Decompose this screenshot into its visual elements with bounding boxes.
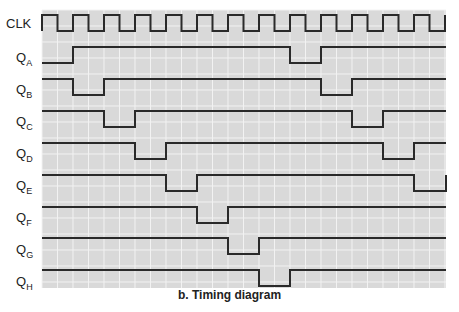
grid-background — [42, 10, 446, 288]
qb-label: QB — [16, 82, 32, 100]
qc-label: QC — [16, 114, 33, 132]
signal-labels: CLKQAQBQCQDQEQFQGQH — [6, 16, 33, 292]
qe-label: QE — [16, 178, 32, 196]
timing-diagram: CLKQAQBQCQDQEQFQGQH — [0, 0, 459, 312]
qa-label: QA — [16, 50, 32, 68]
qd-label: QD — [16, 146, 33, 164]
figure-caption: b. Timing diagram — [0, 288, 459, 302]
qg-label: QG — [16, 242, 33, 260]
qf-label: QF — [16, 210, 32, 228]
clk-label: CLK — [6, 16, 32, 31]
